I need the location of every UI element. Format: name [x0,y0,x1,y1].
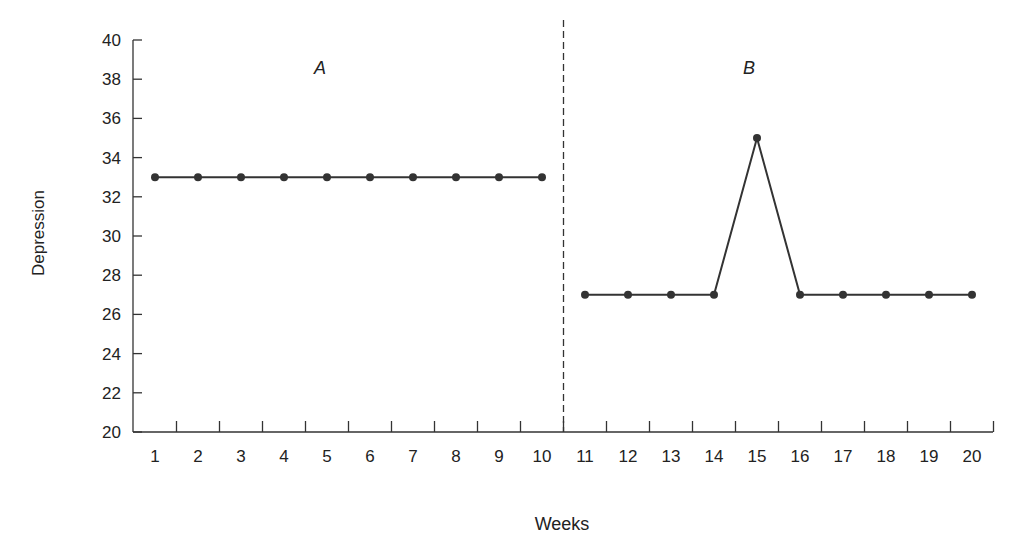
x-tick-label: 15 [748,447,767,466]
x-tick-label: 6 [365,447,374,466]
y-tick-label: 34 [102,149,121,168]
data-point [151,173,159,181]
data-point [280,173,288,181]
data-point [452,173,460,181]
y-tick-label: 20 [102,423,121,442]
x-tick-label: 12 [619,447,638,466]
y-tick-label: 32 [102,188,121,207]
x-tick-label: 5 [322,447,331,466]
data-point [667,291,675,299]
x-tick-label: 14 [705,447,724,466]
data-point [409,173,417,181]
data-point [710,291,718,299]
x-tick-label: 7 [408,447,417,466]
x-tick-label: 16 [791,447,810,466]
x-tick-label: 9 [494,447,503,466]
data-point [323,173,331,181]
y-axis-title: Depression [29,190,48,276]
data-point [538,173,546,181]
data-point [366,173,374,181]
data-point [796,291,804,299]
data-point [968,291,976,299]
y-tick-label: 36 [102,109,121,128]
data-point [581,291,589,299]
y-tick-label: 38 [102,70,121,89]
x-tick-label: 20 [963,447,982,466]
data-point [624,291,632,299]
phase-b-label: B [743,58,755,78]
x-tick-label: 2 [193,447,202,466]
x-tick-label: 18 [877,447,896,466]
x-tick-label: 3 [236,447,245,466]
phase-a-label: A [313,58,326,78]
data-point [925,291,933,299]
data-point [753,134,761,142]
data-point [237,173,245,181]
data-point [882,291,890,299]
y-tick-label: 26 [102,305,121,324]
phase-b-line [585,138,972,295]
y-tick-label: 30 [102,227,121,246]
x-tick-label: 17 [834,447,853,466]
y-tick-label: 22 [102,384,121,403]
x-tick-label: 19 [920,447,939,466]
x-axis-title: Weeks [535,514,590,534]
x-tick-label: 4 [279,447,288,466]
y-axis: 2022242628303234363840 [102,31,142,442]
single-case-line-chart: 2022242628303234363840 12345678910111213… [0,0,1019,556]
x-tick-label: 10 [533,447,552,466]
y-tick-label: 24 [102,345,121,364]
data-point [839,291,847,299]
x-tick-label: 8 [451,447,460,466]
x-tick-label: 11 [576,447,594,466]
y-tick-label: 28 [102,266,121,285]
data-point [495,173,503,181]
x-tick-label: 1 [150,447,159,466]
data-point [194,173,202,181]
x-tick-label: 13 [662,447,681,466]
y-tick-label: 40 [102,31,121,50]
